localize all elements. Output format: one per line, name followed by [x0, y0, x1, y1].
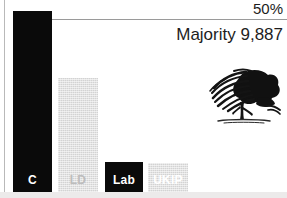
fifty-percent-threshold-line [50, 19, 287, 20]
bar-conservative [13, 11, 52, 192]
election-result-bar-chart: 50% Majority 9,887 C LD Lab UKIP [0, 0, 287, 198]
bar-label-conservative: C [13, 173, 52, 187]
bar-label-liberal-democrat: LD [58, 173, 98, 187]
majority-label: Majority 9,887 [176, 24, 283, 45]
chart-baseline [0, 192, 287, 198]
oak-tree-logo-icon [200, 62, 284, 128]
bar-label-ukip: UKIP [148, 173, 188, 187]
y-axis-line [4, 0, 5, 192]
bar-label-labour: Lab [105, 173, 143, 187]
fifty-percent-label: 50% [253, 1, 283, 17]
